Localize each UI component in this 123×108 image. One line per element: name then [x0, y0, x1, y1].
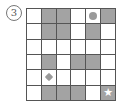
- grid-cell-r2-c2: [57, 40, 71, 54]
- grid-cell-r3-c2: [57, 55, 71, 69]
- grid-cell-r0-c5: [101, 9, 115, 23]
- grid-cell-r1-c5: [101, 24, 115, 38]
- grid-cell-r2-c0: [27, 40, 41, 54]
- puzzle-number-label: 3: [6, 5, 22, 21]
- grid-cell-r0-c2: [57, 9, 71, 23]
- grid-cell-r2-c5: [101, 40, 115, 54]
- grid-cell-r4-c4: [86, 70, 100, 84]
- grid-cell-r4-c2: [57, 70, 71, 84]
- grid-cell-r1-c2: [57, 24, 71, 38]
- grid-cell-r0-c4: [86, 9, 100, 23]
- grid-cell-r3-c5: [101, 55, 115, 69]
- circle-icon: [89, 12, 97, 20]
- grid-cell-r3-c3: [71, 55, 85, 69]
- grid-cell-r4-c1: [42, 70, 56, 84]
- grid-cell-r2-c3: [71, 40, 85, 54]
- grid-cell-r5-c4: [86, 86, 100, 100]
- grid-cell-r3-c4: [86, 55, 100, 69]
- grid-cell-r1-c4: [86, 24, 100, 38]
- grid-cell-r1-c0: [27, 24, 41, 38]
- grid-cell-r0-c0: [27, 9, 41, 23]
- grid-cell-r5-c0: [27, 86, 41, 100]
- grid-cell-r5-c1: [42, 86, 56, 100]
- grid-cell-r5-c5: ★: [101, 86, 115, 100]
- grid-cell-r5-c3: [71, 86, 85, 100]
- grid-cell-r1-c1: [42, 24, 56, 38]
- grid-cell-r4-c0: [27, 70, 41, 84]
- grid-cell-r3-c0: [27, 55, 41, 69]
- grid-cell-r2-c4: [86, 40, 100, 54]
- grid-cell-r0-c1: [42, 9, 56, 23]
- grid-cell-r2-c1: [42, 40, 56, 54]
- grid-cell-r5-c2: [57, 86, 71, 100]
- star-icon: ★: [103, 87, 113, 98]
- grid-cell-r1-c3: [71, 24, 85, 38]
- puzzle-grid: ★: [26, 8, 116, 101]
- grid-cell-r3-c1: [42, 55, 56, 69]
- grid-cell-r4-c5: [101, 70, 115, 84]
- grid-cell-r4-c3: [71, 70, 85, 84]
- diamond-icon: [44, 73, 52, 81]
- grid-cell-r0-c3: [71, 9, 85, 23]
